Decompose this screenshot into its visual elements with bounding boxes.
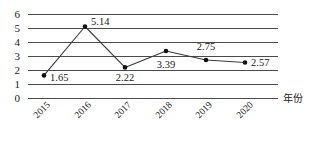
data-label-2019: 2.75: [197, 41, 215, 52]
y-tick-label-5: 5: [15, 22, 21, 34]
x-tick-label-2017: 2017: [113, 99, 134, 120]
x-axis-tick-labels: 2015 2016 2017 2018 2019 2020: [32, 99, 256, 120]
series-markers: [42, 24, 248, 77]
data-point-2020: [243, 60, 248, 65]
data-point-2016: [83, 24, 88, 29]
line-chart: 6 5 4 3 2 1 0 1.65 5.14 2.22 3.39 2.75 2…: [0, 0, 318, 146]
y-tick-label-3: 3: [15, 50, 21, 62]
data-label-2016: 5.14: [91, 16, 110, 27]
x-tick-label-2019: 2019: [194, 99, 215, 120]
y-tick-label-2: 2: [15, 64, 21, 76]
x-tick-label-2016: 2016: [73, 99, 94, 120]
x-axis-title-group: 年份: [283, 92, 303, 104]
x-axis-title: 年份: [283, 92, 303, 104]
y-tick-label-1: 1: [15, 78, 21, 90]
chart-canvas: 6 5 4 3 2 1 0 1.65 5.14 2.22 3.39 2.75 2…: [0, 0, 318, 146]
data-label-2015: 1.65: [50, 72, 68, 83]
y-tick-label-0: 0: [15, 92, 21, 104]
x-tick-label-2015: 2015: [32, 99, 53, 120]
y-tick-label-6: 6: [15, 8, 21, 20]
data-label-2017: 2.22: [116, 72, 134, 83]
data-point-2018: [164, 49, 169, 54]
data-label-2018: 3.39: [157, 59, 175, 70]
y-tick-label-4: 4: [15, 36, 21, 48]
x-tick-label-2020: 2020: [235, 99, 256, 120]
data-point-2015: [42, 73, 47, 78]
data-label-2020: 2.57: [251, 57, 269, 68]
data-point-2017: [123, 65, 128, 70]
y-axis-tick-labels: 6 5 4 3 2 1 0: [15, 8, 21, 104]
x-tick-label-2018: 2018: [154, 99, 175, 120]
data-point-2019: [204, 58, 209, 63]
